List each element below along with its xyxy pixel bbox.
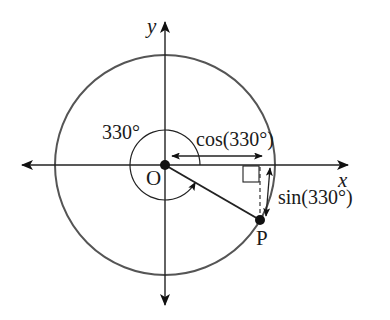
diagram-canvas xyxy=(0,0,390,320)
origin-label: O xyxy=(146,168,161,189)
y-axis-label: y xyxy=(147,16,156,37)
right-angle-marker xyxy=(243,166,259,182)
point-p xyxy=(255,215,265,225)
unit-circle-figure: y x O P 330° cos(330°) sin(330°) xyxy=(0,0,390,320)
cos-label: cos(330°) xyxy=(196,129,274,149)
origin-point xyxy=(160,160,170,170)
angle-label: 330° xyxy=(102,122,140,142)
sin-label: sin(330°) xyxy=(278,187,353,207)
sin-arrow xyxy=(266,168,270,216)
radius-op xyxy=(165,165,260,220)
point-p-label: P xyxy=(256,228,268,249)
